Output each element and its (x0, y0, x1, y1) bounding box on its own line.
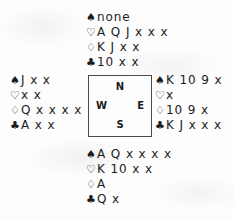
compass-label-south: S (116, 120, 123, 130)
club-icon: ♣ (10, 118, 21, 133)
hand-east-diamonds-row: ♢ 10 9 x (155, 103, 223, 118)
club-icon: ♣ (86, 55, 97, 70)
hand-west-diamonds-row: ♢ Q x x x x (10, 103, 82, 118)
hand-north-spades: none (97, 10, 131, 25)
hand-north-hearts: A Q J x x x (97, 25, 168, 40)
bridge-hand-diagram: ♠ none ♡ A Q J x x x ♢ K J x x ♣ 10 x x … (0, 0, 234, 219)
club-icon: ♣ (86, 192, 97, 207)
hand-west-spades: J x x (21, 73, 51, 88)
hand-south-clubs-row: ♣ Q x (86, 192, 172, 207)
hand-east-hearts-row: ♡ x (155, 88, 223, 103)
hand-south-spades: A Q x x x x (97, 147, 172, 162)
hand-north-diamonds: K J x x (97, 40, 140, 55)
diamond-icon: ♢ (86, 40, 97, 55)
hand-east-diamonds: 10 9 x (166, 103, 209, 118)
diamond-icon: ♢ (10, 103, 21, 118)
diamond-icon: ♢ (86, 177, 97, 192)
hand-east-spades: K 10 9 x (166, 73, 223, 88)
heart-icon: ♡ (10, 88, 21, 103)
hand-east-clubs-row: ♣ K J x x x (155, 118, 223, 133)
hand-south-diamonds: A (97, 177, 106, 192)
hand-west-clubs-row: ♣ A x x (10, 118, 82, 133)
compass-label-west: W (96, 101, 107, 111)
hand-east-hearts: x (166, 88, 174, 103)
hand-east-spades-row: ♠ K 10 9 x (155, 73, 223, 88)
hand-west-clubs: A x x (21, 118, 56, 133)
hand-west-spades-row: ♠ J x x (10, 73, 82, 88)
hand-north-diamonds-row: ♢ K J x x (86, 40, 168, 55)
hand-north-hearts-row: ♡ A Q J x x x (86, 25, 168, 40)
hand-south-hearts-row: ♡ K 10 x x (86, 162, 172, 177)
spade-icon: ♠ (155, 73, 166, 88)
hand-south: ♠ A Q x x x x ♡ K 10 x x ♢ A ♣ Q x (86, 147, 172, 207)
diamond-icon: ♢ (155, 103, 166, 118)
hand-east: ♠ K 10 9 x ♡ x ♢ 10 9 x ♣ K J x x x (155, 73, 223, 133)
heart-icon: ♡ (86, 25, 97, 40)
hand-north: ♠ none ♡ A Q J x x x ♢ K J x x ♣ 10 x x (86, 10, 168, 70)
hand-south-clubs: Q x (97, 192, 120, 207)
hand-west-hearts: x x (21, 88, 42, 103)
hand-west-hearts-row: ♡ x x (10, 88, 82, 103)
heart-icon: ♡ (155, 88, 166, 103)
hand-south-hearts: K 10 x x (97, 162, 153, 177)
hand-east-clubs: K J x x x (166, 118, 222, 133)
hand-north-clubs: 10 x x (97, 55, 140, 70)
hand-south-spades-row: ♠ A Q x x x x (86, 147, 172, 162)
heart-icon: ♡ (86, 162, 97, 177)
hand-north-clubs-row: ♣ 10 x x (86, 55, 168, 70)
club-icon: ♣ (155, 118, 166, 133)
compass-box: N W E S (88, 75, 152, 137)
spade-icon: ♠ (10, 73, 21, 88)
hand-west: ♠ J x x ♡ x x ♢ Q x x x x ♣ A x x (10, 73, 82, 133)
spade-icon: ♠ (86, 10, 97, 25)
compass-label-north: N (116, 82, 124, 92)
hand-south-diamonds-row: ♢ A (86, 177, 172, 192)
hand-west-diamonds: Q x x x x (21, 103, 82, 118)
compass-label-east: E (137, 101, 144, 111)
hand-north-spades-row: ♠ none (86, 10, 168, 25)
spade-icon: ♠ (86, 147, 97, 162)
